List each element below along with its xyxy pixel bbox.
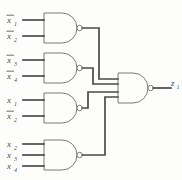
gate-output-body xyxy=(118,73,148,103)
gate-1-input-2-subscript: 2 xyxy=(14,37,17,43)
output-label-base: z xyxy=(170,78,175,88)
gate-1-input-label-2: x 2 xyxy=(6,31,17,43)
gate-4-body xyxy=(44,140,77,170)
gate-2-input-2-subscript: 4 xyxy=(14,77,17,83)
gate-4 xyxy=(44,140,82,170)
gate-1-input-1-subscript: 1 xyxy=(14,21,17,27)
gate-2 xyxy=(44,53,82,83)
gate-1-input-1-base: x xyxy=(6,15,11,25)
gate-1-input-label-1: x 1 xyxy=(6,15,17,27)
gate-1-input-2-base: x xyxy=(6,31,11,41)
gate-4-input-3-subscript: 4 xyxy=(14,167,17,173)
gate-4-input-2-base: x xyxy=(6,150,11,160)
gate-2-body xyxy=(44,53,77,83)
gate-3-input-2-subscript: 2 xyxy=(14,117,17,123)
gate-2-input-1-base: x xyxy=(6,55,11,65)
wire-gate3-to-output xyxy=(82,92,118,108)
gate-1 xyxy=(44,13,82,43)
output-label-subscript: 1 xyxy=(177,84,180,90)
wire-gate1-to-output xyxy=(82,28,118,79)
gate-4-input-1-subscript: 2 xyxy=(14,145,17,151)
gate-3-input-label-1: x 1 xyxy=(6,95,17,107)
gate-4-input-2-subscript: 3 xyxy=(13,156,17,162)
gate-1-body xyxy=(44,13,77,43)
gate-3-input-1-base: x xyxy=(6,95,11,105)
gate-3 xyxy=(44,93,82,123)
gate-2-input-2-base: x xyxy=(6,71,11,81)
gate-3-body xyxy=(44,93,77,123)
gate-3-input-2-base: x xyxy=(6,111,11,121)
gate-4-input-3-base: x xyxy=(6,161,11,171)
gate-3-input-label-2: x 2 xyxy=(6,111,17,123)
gate-3-input-1-subscript: 1 xyxy=(14,101,17,107)
wire-gate2-to-output xyxy=(82,68,118,84)
gate-4-input-1-base: x xyxy=(6,139,11,149)
gate-2-input-label-1: x 3 xyxy=(6,55,17,67)
logic-circuit-figure: x 1 x 2 x 3 x 4 xyxy=(0,0,182,180)
gate-2-input-1-subscript: 3 xyxy=(13,61,17,67)
gate-4-input-label-3: x 4 xyxy=(6,161,17,173)
gate-2-input-label-2: x 4 xyxy=(6,71,17,83)
gate-output xyxy=(118,73,153,103)
